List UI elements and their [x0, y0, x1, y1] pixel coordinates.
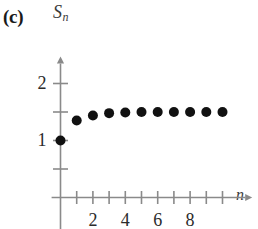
data-point: [153, 107, 163, 117]
data-point-group: [56, 107, 228, 146]
data-point: [185, 107, 195, 117]
data-point: [56, 136, 66, 146]
x-axis-tick-label: 6: [148, 211, 168, 229]
plot-area: [0, 0, 258, 229]
x-axis-tick-label: 2: [83, 211, 103, 229]
data-point: [169, 107, 179, 117]
data-point: [120, 108, 130, 118]
data-point: [88, 110, 98, 120]
data-point: [72, 116, 82, 126]
x-axis-tick-label: 8: [180, 211, 200, 229]
x-axis-tick-label: 4: [115, 211, 135, 229]
y-axis-tick-label: 2: [25, 74, 47, 92]
data-point: [201, 107, 211, 117]
figure-panel-c: (c) Sn n 21 2468: [0, 0, 258, 229]
y-axis-tick-label: 1: [25, 131, 47, 149]
data-point: [137, 107, 147, 117]
data-point: [218, 107, 228, 117]
data-point: [104, 108, 114, 118]
